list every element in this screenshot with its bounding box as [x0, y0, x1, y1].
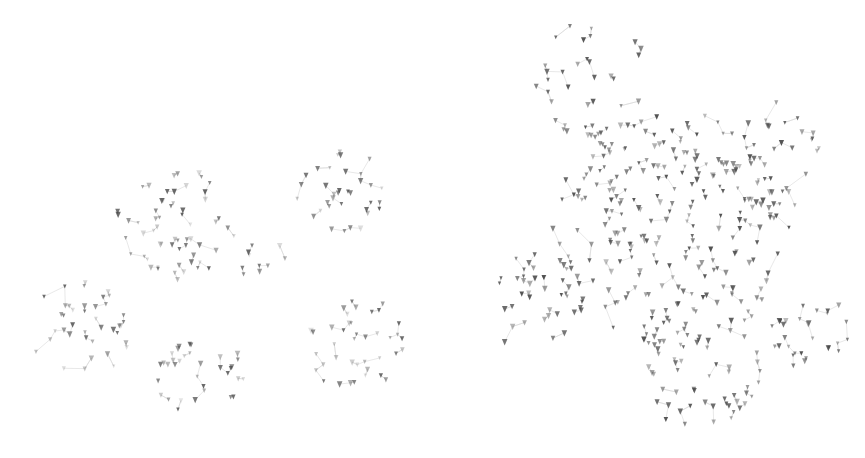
graph-node: [652, 133, 656, 138]
graph-node: [590, 27, 593, 31]
graph-node: [666, 402, 671, 408]
graph-node: [624, 169, 629, 175]
graph-node: [758, 286, 763, 292]
graph-node: [683, 165, 686, 169]
graph-node: [178, 247, 182, 251]
graph-node: [811, 131, 816, 137]
graph-node: [236, 357, 240, 362]
graph-node: [609, 269, 615, 275]
graph-edge: [536, 86, 548, 92]
graph-node: [668, 210, 672, 214]
graph-node: [565, 267, 569, 271]
graph-node: [400, 336, 404, 341]
graph-node: [83, 284, 86, 288]
graph-edge: [566, 180, 574, 195]
graph-node: [167, 397, 171, 401]
graph-node: [169, 204, 173, 209]
graph-node: [304, 173, 309, 179]
graph-node: [277, 243, 282, 249]
graph-edge: [730, 330, 744, 336]
graph-edge: [297, 184, 301, 198]
graph-node: [607, 188, 611, 193]
graph-node: [340, 202, 344, 206]
graph-node: [685, 333, 689, 338]
graph-node: [746, 385, 750, 389]
graph-node: [655, 194, 659, 198]
graph-node: [532, 275, 537, 281]
graph-node: [185, 237, 189, 242]
graph-node: [176, 238, 179, 242]
graph-edge: [371, 185, 382, 188]
graph-edge: [318, 168, 330, 169]
graph-node: [522, 268, 526, 272]
graph-node: [71, 308, 75, 313]
graph-node: [645, 332, 648, 336]
graph-node: [614, 194, 619, 199]
graph-node: [676, 285, 681, 291]
graph-node: [791, 354, 794, 358]
graph-node: [757, 381, 761, 385]
graph-node: [379, 373, 383, 378]
graph-edge: [705, 116, 718, 122]
graph-node: [546, 78, 550, 82]
graph-node: [694, 309, 698, 314]
graph-node: [365, 211, 370, 217]
graph-edge: [560, 244, 569, 257]
graph-node: [694, 177, 699, 183]
graph-node: [624, 189, 627, 193]
graph-node: [781, 322, 786, 328]
graph-node: [172, 173, 177, 179]
graph-edge: [789, 192, 795, 206]
graph-node: [680, 171, 684, 176]
graph-node: [542, 286, 548, 292]
graph-node: [580, 198, 584, 202]
graph-node: [337, 381, 343, 387]
graph-edge: [562, 195, 574, 200]
graph-node: [777, 318, 783, 324]
graph-node: [172, 189, 177, 195]
graph-node: [549, 99, 554, 104]
graph-edge: [547, 71, 563, 72]
graph-node: [691, 238, 695, 243]
graph-node: [636, 52, 641, 58]
graph-node: [158, 242, 163, 248]
graph-node: [544, 69, 549, 75]
graph-node: [711, 403, 716, 409]
graph-node: [619, 104, 622, 108]
graph-node: [203, 197, 208, 203]
graph-edge: [361, 159, 370, 174]
graph-node: [551, 336, 556, 341]
graph-node: [678, 409, 683, 415]
graph-node: [83, 330, 86, 334]
graph-node: [647, 341, 651, 345]
graph-node: [670, 201, 675, 206]
graph-node: [515, 276, 520, 281]
graph-node: [695, 167, 699, 172]
graph-node: [642, 325, 646, 329]
graph-node: [844, 320, 848, 324]
graph-node: [295, 197, 299, 201]
graph-node: [691, 224, 694, 228]
graph-node: [201, 384, 205, 389]
graph-edge: [605, 307, 613, 328]
graph-node: [787, 226, 790, 230]
graph-node: [182, 354, 186, 358]
graph-node: [582, 177, 586, 181]
graph-node: [584, 172, 588, 176]
graph-node: [589, 242, 594, 248]
graph-node: [553, 118, 558, 123]
graph-edge: [768, 254, 778, 273]
graph-node: [704, 162, 707, 166]
graph-node: [566, 284, 572, 290]
graph-node: [674, 157, 678, 162]
graph-node: [618, 259, 622, 264]
graph-node: [732, 393, 737, 398]
graph-node: [153, 216, 158, 221]
graph-node: [650, 316, 654, 321]
graph-node: [742, 334, 747, 339]
graph-node: [159, 393, 163, 398]
graph-node: [358, 226, 363, 232]
graph-node: [755, 240, 759, 245]
graph-node: [560, 198, 564, 202]
graph-edge: [800, 306, 803, 319]
